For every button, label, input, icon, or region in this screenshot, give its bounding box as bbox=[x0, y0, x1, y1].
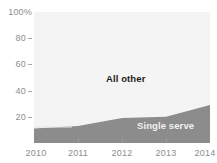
x-axis-tick-label-2012: 2012 bbox=[112, 148, 133, 159]
stacked-area-chart: 100% 80 60 40 20 All other Single serve … bbox=[0, 0, 217, 163]
series-label-single-serve: Single serve bbox=[137, 120, 194, 131]
y-axis-tick-mark-40 bbox=[28, 91, 32, 92]
y-axis-tick-label-60: 60 bbox=[16, 59, 26, 69]
y-axis-tick-mark-20 bbox=[28, 117, 32, 118]
y-axis-top-label: 100% bbox=[8, 7, 32, 17]
x-axis-tick-label-2010: 2010 bbox=[26, 148, 47, 159]
y-axis-tick-label-40: 40 bbox=[16, 86, 26, 96]
y-axis-tick-mark-60 bbox=[28, 64, 32, 65]
y-axis: 100% 80 60 40 20 bbox=[0, 0, 34, 163]
x-axis-tick-mark-2012 bbox=[122, 138, 123, 143]
x-axis-tick-label-2014: 2014 bbox=[195, 148, 216, 159]
y-axis-tick-label-80: 80 bbox=[16, 33, 26, 43]
x-axis-tick-label-2011: 2011 bbox=[68, 148, 88, 159]
x-axis-tick-mark-2013 bbox=[166, 138, 167, 143]
y-axis-tick-label-20: 20 bbox=[16, 112, 26, 122]
y-axis-tick-mark-80 bbox=[28, 38, 32, 39]
x-axis-tick-mark-2011 bbox=[78, 138, 79, 143]
x-axis-tick-label-2013: 2013 bbox=[156, 148, 177, 159]
series-label-all-other: All other bbox=[106, 73, 145, 84]
x-axis: 2010 2011 2012 2013 2014 bbox=[0, 144, 217, 163]
